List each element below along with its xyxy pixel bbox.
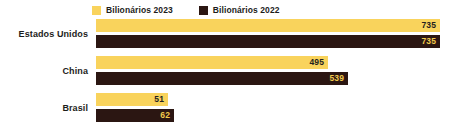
bar-brasil-2022[interactable]: 62 — [96, 109, 174, 122]
category-label-china: China — [0, 66, 88, 75]
bar-row-estados-unidos-2022: 735 — [96, 35, 454, 48]
bar-row-brasil-2023: 51 — [96, 93, 454, 106]
legend-swatch-2022 — [199, 6, 208, 15]
bar-group-brasil: Brasil 51 62 — [0, 93, 454, 122]
category-label-brasil: Brasil — [0, 103, 88, 112]
legend-swatch-2023 — [92, 6, 101, 15]
bar-value-china-2022: 539 — [330, 74, 344, 83]
category-label-estados-unidos: Estados Unidos — [0, 29, 88, 38]
bar-value-brasil-2023: 51 — [154, 95, 164, 104]
bar-brasil-2023[interactable]: 51 — [96, 93, 168, 106]
legend-item-2023[interactable]: Bilionários 2023 — [92, 6, 173, 15]
bar-group-china: China 495 539 — [0, 56, 454, 85]
bar-row-china-2022: 539 — [96, 72, 454, 85]
bar-row-estados-unidos-2023: 735 — [96, 19, 454, 32]
legend-item-2022[interactable]: Bilionários 2022 — [199, 6, 280, 15]
bar-value-brasil-2022: 62 — [160, 111, 170, 120]
bar-china-2022[interactable]: 539 — [96, 72, 348, 85]
legend-label-2022: Bilionários 2022 — [213, 6, 280, 15]
bar-row-brasil-2022: 62 — [96, 109, 454, 122]
chart-plot-area: Estados Unidos 735 735 China 495 — [0, 19, 454, 140]
bar-china-2023[interactable]: 495 — [96, 56, 328, 69]
bar-row-china-2023: 495 — [96, 56, 454, 69]
legend-label-2023: Bilionários 2023 — [106, 6, 173, 15]
billionaires-bar-chart: Bilionários 2023 Bilionários 2022 Estado… — [0, 0, 454, 140]
bar-group-estados-unidos: Estados Unidos 735 735 — [0, 19, 454, 48]
bar-value-china-2023: 495 — [310, 58, 324, 67]
bar-estados-unidos-2022[interactable]: 735 — [96, 35, 440, 48]
bar-estados-unidos-2023[interactable]: 735 — [96, 19, 440, 32]
bar-value-estados-unidos-2022: 735 — [422, 37, 436, 46]
chart-legend: Bilionários 2023 Bilionários 2022 — [92, 2, 280, 18]
bar-value-estados-unidos-2023: 735 — [422, 21, 436, 30]
